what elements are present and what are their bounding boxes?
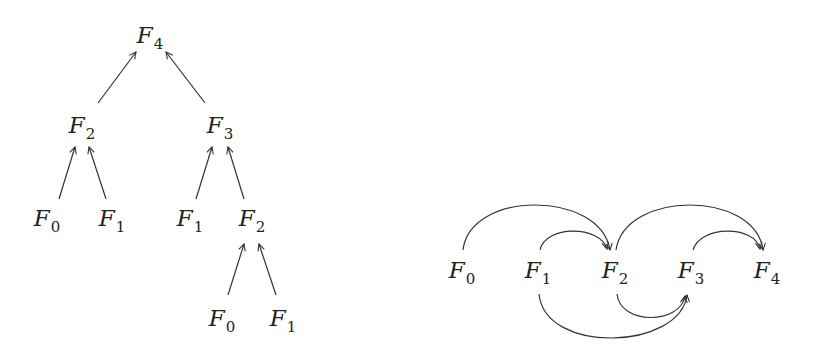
dag-node-f2: F2	[602, 259, 629, 282]
edge-f1-f2	[89, 147, 106, 199]
dag-edge-f0-f2	[463, 205, 610, 250]
dag-edge-f3-f4	[693, 231, 760, 250]
tree-node-f1: F1	[270, 307, 297, 330]
tree-node-f3: F3	[207, 114, 234, 137]
dag-node-f4: F4	[754, 259, 781, 282]
edge-f1-f2-lower	[259, 244, 276, 295]
edge-f3-f4	[166, 52, 205, 103]
dag-node-f3: F3	[678, 259, 705, 282]
diagram-canvas	[0, 0, 813, 354]
tree-node-f2: F2	[239, 207, 266, 230]
dag-edge-f1-f2	[540, 231, 607, 250]
edge-f1-f3	[196, 147, 212, 199]
edge-f0-f2	[59, 147, 75, 199]
dag-node-f1: F1	[525, 259, 552, 282]
tree-node-f2: F2	[69, 114, 96, 137]
edge-f0-f2-lower	[228, 244, 244, 295]
tree-node-f1: F1	[99, 207, 126, 230]
edge-f2-f3	[228, 147, 244, 199]
dag-edge-f2-f3	[617, 294, 685, 318]
dag-edge-f2-f4	[616, 205, 763, 250]
tree-node-f4-root: F4	[137, 24, 164, 47]
tree-node-f1: F1	[177, 207, 204, 230]
dag-node-f0: F0	[449, 259, 476, 282]
edge-f2-f4	[98, 52, 136, 103]
tree-node-f0: F0	[209, 307, 236, 330]
tree-edges	[59, 52, 276, 295]
tree-node-f0: F0	[34, 207, 61, 230]
